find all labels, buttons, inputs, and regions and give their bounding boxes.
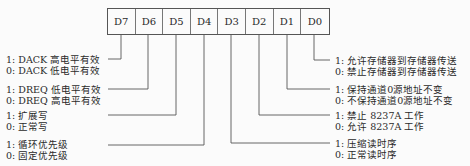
label-d6: 1: DREQ 低电平有效 0: DREQ 高电平有效 (6, 84, 101, 106)
connector-d7 (108, 35, 121, 59)
connector-lines (0, 0, 470, 166)
connector-d5 (108, 35, 176, 115)
label-d1: 1: 保持通道0源地址不变 0: 不保持通道0源地址不变 (335, 84, 453, 106)
label-d3: 1: 压缩读时序 0: 正常读时序 (335, 138, 397, 160)
label-d0: 1: 允许存储器到存储器传送 0: 禁止存储器到存储器传送 (335, 55, 457, 77)
connector-d2 (259, 35, 330, 115)
label-d7: 1: DACK 高电平有效 0: DACK 低电平有效 (6, 54, 100, 76)
label-d4: 1: 循环优先级 0: 固定优先级 (6, 139, 68, 161)
connector-d4 (108, 35, 204, 145)
connector-d0 (314, 35, 330, 60)
connector-d1 (287, 35, 330, 89)
label-d5: 1: 扩展写 0: 正常写 (6, 110, 48, 132)
connector-d6 (108, 35, 148, 89)
label-d2: 1: 禁止 8237A 工作 0: 允许 8237A 工作 (335, 110, 424, 132)
